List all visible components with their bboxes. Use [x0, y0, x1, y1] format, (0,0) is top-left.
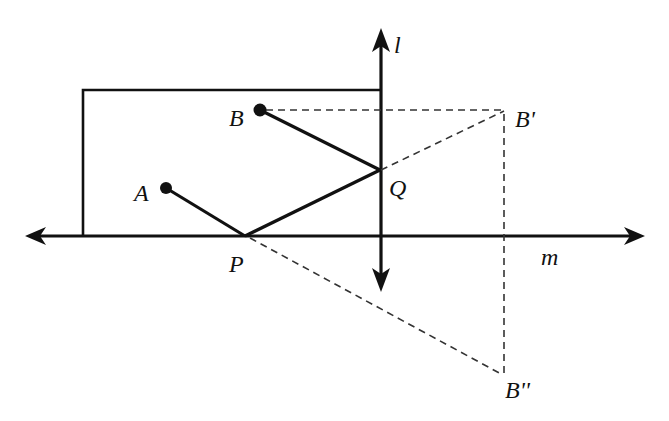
reflection-diagram: l B B' A Q P m B'' — [0, 0, 669, 421]
label-b-prime: B' — [515, 106, 536, 132]
label-p: P — [228, 251, 244, 277]
point-b — [254, 104, 267, 117]
segment-q-b — [260, 110, 380, 170]
label-l: l — [394, 32, 401, 58]
point-a — [160, 182, 172, 194]
label-a: A — [132, 180, 149, 206]
label-m: m — [541, 244, 558, 270]
label-q: Q — [389, 175, 406, 201]
segment-p-q — [245, 170, 380, 236]
label-b: B — [229, 105, 244, 131]
label-b-double-prime: B'' — [505, 377, 531, 403]
dashed-p-to-b-double-prime — [250, 238, 503, 375]
dashed-q-to-b-prime — [381, 111, 504, 170]
segment-a-p — [166, 188, 245, 236]
